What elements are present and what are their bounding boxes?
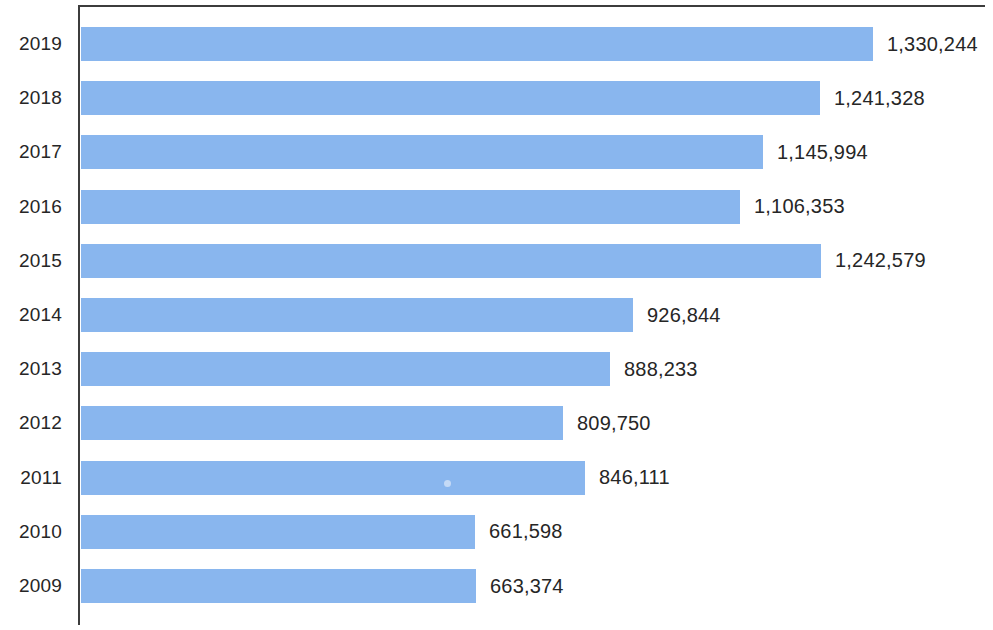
chart-row: 2012809,750 bbox=[0, 396, 993, 450]
category-label-2019: 2019 bbox=[0, 17, 62, 71]
bar-2012 bbox=[81, 406, 563, 440]
category-label-2012: 2012 bbox=[0, 396, 62, 450]
bar-value-label-2017: 1,145,994 bbox=[777, 125, 868, 179]
bar-value-label-2013: 888,233 bbox=[624, 342, 698, 396]
chart-row: 2014926,844 bbox=[0, 288, 993, 342]
bar-2013 bbox=[81, 352, 610, 386]
category-label-2009: 2009 bbox=[0, 559, 62, 613]
bar-2014 bbox=[81, 298, 633, 332]
bar-2011 bbox=[81, 461, 585, 495]
chart-top-rule bbox=[78, 5, 985, 7]
bar-value-label-2012: 809,750 bbox=[577, 396, 651, 450]
bar-value-label-2019: 1,330,244 bbox=[887, 17, 978, 71]
bar-value-label-2009: 663,374 bbox=[490, 559, 564, 613]
chart-row: 20171,145,994 bbox=[0, 125, 993, 179]
category-label-2013: 2013 bbox=[0, 342, 62, 396]
chart-row: 20151,242,579 bbox=[0, 234, 993, 288]
bar-value-label-2010: 661,598 bbox=[489, 505, 563, 559]
chart-row: 2009663,374 bbox=[0, 559, 993, 613]
category-label-2011: 2011 bbox=[0, 451, 62, 505]
chart-row: 2013888,233 bbox=[0, 342, 993, 396]
category-label-2014: 2014 bbox=[0, 288, 62, 342]
chart-row: 2010661,598 bbox=[0, 505, 993, 559]
bar-2017 bbox=[81, 135, 763, 169]
category-label-2015: 2015 bbox=[0, 234, 62, 288]
chart-row: 20191,330,244 bbox=[0, 17, 993, 71]
chart-row: 2011846,111 bbox=[0, 451, 993, 505]
bar-chart: 20191,330,24420181,241,32820171,145,9942… bbox=[0, 0, 993, 630]
bar-2015 bbox=[81, 244, 821, 278]
bar-value-label-2014: 926,844 bbox=[647, 288, 721, 342]
category-label-2010: 2010 bbox=[0, 505, 62, 559]
category-label-2018: 2018 bbox=[0, 71, 62, 125]
bar-value-label-2016: 1,106,353 bbox=[754, 180, 845, 234]
bar-2019 bbox=[81, 27, 873, 61]
bar-value-label-2018: 1,241,328 bbox=[834, 71, 925, 125]
bar-value-label-2015: 1,242,579 bbox=[835, 234, 926, 288]
bar-value-label-2011: 846,111 bbox=[599, 451, 670, 505]
category-label-2017: 2017 bbox=[0, 125, 62, 179]
bar-2018 bbox=[81, 81, 820, 115]
bar-2016 bbox=[81, 190, 740, 224]
category-label-2016: 2016 bbox=[0, 180, 62, 234]
bar-2009 bbox=[81, 569, 476, 603]
chart-row: 20181,241,328 bbox=[0, 71, 993, 125]
bar-2010 bbox=[81, 515, 475, 549]
chart-row: 20161,106,353 bbox=[0, 180, 993, 234]
